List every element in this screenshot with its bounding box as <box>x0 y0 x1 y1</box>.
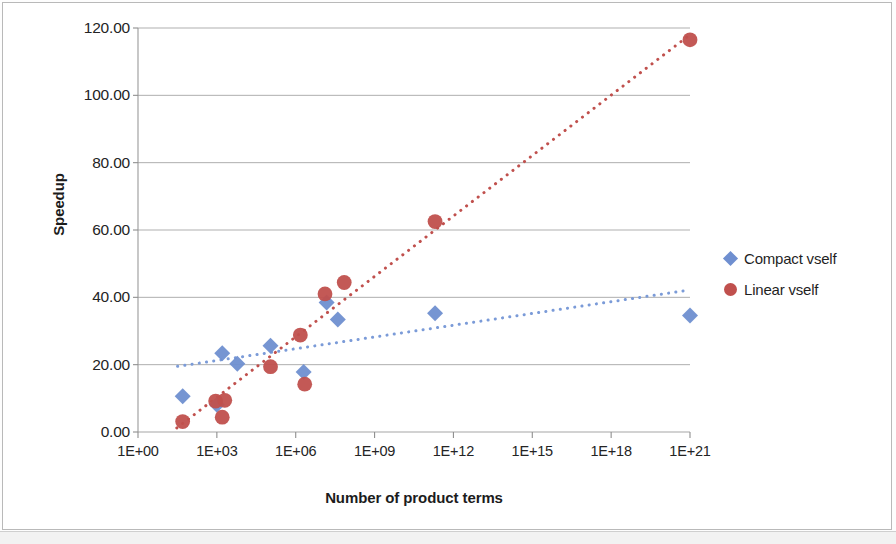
y-axis-tick-label: 100.00 <box>10 86 130 104</box>
trendline-series-1 <box>177 35 690 428</box>
x-axis-tick-label: 1E+03 <box>172 443 262 459</box>
data-point-marker <box>297 377 312 392</box>
legend-marker-circle-icon <box>724 283 737 296</box>
y-axis-tick-label: 60.00 <box>10 221 130 239</box>
x-axis-tick-label: 1E+00 <box>93 443 183 459</box>
data-point-marker <box>428 214 443 229</box>
y-axis-tick-label: 20.00 <box>10 356 130 374</box>
y-axis-tick-label: 120.00 <box>10 19 130 37</box>
x-axis-title: Number of product terms <box>138 489 690 506</box>
legend-marker-diamond-icon <box>723 251 738 266</box>
x-axis-tick-label: 1E+12 <box>408 443 498 459</box>
data-point-marker <box>293 328 308 343</box>
data-point-marker <box>318 287 333 302</box>
figure-bottom-strip <box>0 531 896 544</box>
y-axis-tick-labels: 0.0020.0040.0060.0080.00100.00120.00 <box>0 28 130 432</box>
x-axis-tick-label: 1E+06 <box>251 443 341 459</box>
data-point-marker <box>330 312 346 328</box>
data-point-marker <box>215 410 230 425</box>
data-point-marker <box>683 32 698 47</box>
x-axis-tick-label: 1E+21 <box>645 443 735 459</box>
data-point-marker <box>175 388 191 404</box>
data-point-marker <box>217 393 232 408</box>
legend-item-compact-vself: Compact vself <box>724 243 894 274</box>
x-axis-tick-labels: 1E+001E+031E+061E+091E+121E+151E+181E+21 <box>138 443 690 467</box>
x-axis-tick-label: 1E+09 <box>330 443 420 459</box>
data-point-marker <box>427 305 443 321</box>
y-axis-tick-label: 0.00 <box>10 423 130 441</box>
legend-item-linear-vself: Linear vself <box>724 274 894 305</box>
data-point-marker <box>175 414 190 429</box>
data-point-marker <box>263 359 278 374</box>
legend-label: Linear vself <box>744 281 818 298</box>
trendline-series-0 <box>178 290 690 366</box>
x-axis-tick-label: 1E+18 <box>566 443 656 459</box>
plot-area <box>138 28 690 432</box>
y-axis-tick-label: 40.00 <box>10 288 130 306</box>
plot-canvas <box>138 28 690 432</box>
legend-label: Compact vself <box>744 250 836 267</box>
x-axis-tick-label: 1E+15 <box>487 443 577 459</box>
y-axis-tick-label: 80.00 <box>10 154 130 172</box>
chart-legend: Compact vself Linear vself <box>724 243 894 305</box>
data-point-marker <box>337 275 352 290</box>
